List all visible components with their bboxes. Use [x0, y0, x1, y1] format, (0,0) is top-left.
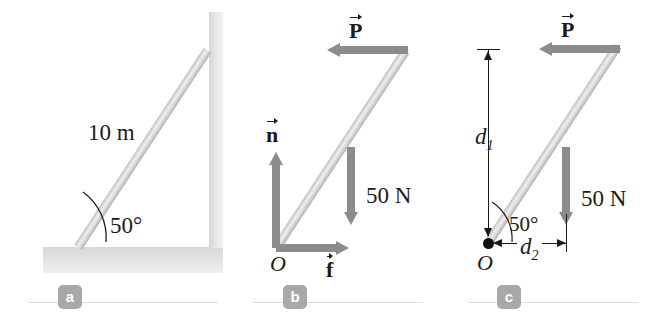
vector-p-shaft-b [340, 46, 408, 54]
ladder-length-label: 10 m [88, 121, 135, 144]
panel-c-torque-diagram: P 50 N d1 O 50° d2 [435, 0, 648, 290]
vector-f-symbol-b: f [326, 259, 333, 281]
angle-label-c: 50° [509, 214, 538, 235]
vector-f-head-b [336, 241, 349, 255]
vector-n-head-b [269, 152, 283, 165]
panel-a-physical-setup: 10 m 50° [0, 0, 230, 290]
origin-label-b: O [270, 253, 286, 275]
d1-subscript: 1 [487, 138, 494, 153]
panel-b-free-body-diagram: P n f 50 N O [230, 0, 435, 290]
d1-symbol: d [475, 124, 487, 149]
physics-figure: 10 m 50° P n f [0, 0, 648, 325]
caption-rule-a [28, 302, 218, 303]
caption-rule-c [468, 302, 638, 303]
vector-p-label-c: P [561, 13, 574, 41]
d2-left-arrowhead [493, 239, 502, 247]
vector-p-symbol-c: P [561, 19, 574, 41]
vector-weight-head-b [344, 212, 358, 225]
d2-right-arrowhead [557, 239, 566, 247]
caption-row-a: a [28, 285, 218, 320]
vector-p-shaft-c [552, 45, 620, 53]
panel-badge-a[interactable]: a [58, 285, 82, 309]
vector-p-label-b: P [349, 14, 362, 42]
vector-f-label-b: f [326, 253, 333, 281]
panel-badge-c[interactable]: c [497, 285, 521, 309]
caption-row-b: b [253, 285, 423, 320]
vector-p-head-b [327, 43, 340, 57]
vector-n-symbol-b: n [266, 124, 278, 146]
vector-n-label-b: n [266, 118, 278, 146]
vector-n-shaft-b [272, 165, 280, 248]
wall-surface [209, 12, 223, 248]
vector-weight-shaft-b [347, 147, 355, 213]
vector-n-overarrow-b [266, 118, 278, 124]
d2-right-extension-tick [566, 214, 567, 252]
d2-label: d2 [517, 235, 542, 263]
vector-f-overarrow-b [326, 253, 333, 259]
weight-label-c: 50 N [581, 187, 626, 210]
vector-p-overarrow-b [349, 14, 362, 20]
d1-label: d1 [475, 125, 494, 153]
d1-top-arrowhead [484, 51, 492, 60]
d2-subscript: 2 [532, 248, 539, 263]
angle-label-a: 50° [110, 214, 142, 237]
d2-symbol: d [520, 234, 532, 259]
panel-badge-b[interactable]: b [283, 285, 307, 309]
caption-rule-b [253, 302, 423, 303]
ground-surface [43, 247, 223, 273]
caption-row-c: c [468, 285, 638, 320]
ladder-b [272, 49, 409, 251]
origin-label-c: O [477, 252, 493, 274]
vector-p-head-c [539, 42, 552, 56]
weight-label-b: 50 N [366, 184, 411, 207]
vector-p-symbol-b: P [349, 20, 362, 42]
vector-p-overarrow-c [561, 13, 574, 19]
vector-weight-shaft-c [562, 147, 570, 213]
